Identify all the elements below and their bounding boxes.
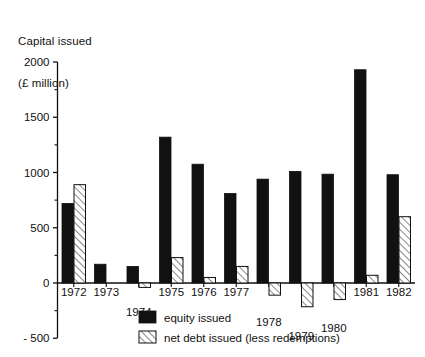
bar-equity-1972 (62, 203, 74, 283)
bar-equity-1982 (387, 175, 399, 283)
plot-area: - 5000500100015002000 197219731974197519… (0, 0, 425, 357)
bar-equity-1980 (322, 174, 334, 283)
legend-swatch-equity (139, 311, 156, 323)
bar-equity-1981 (355, 70, 367, 283)
legend-label-0: equity issued (164, 312, 231, 324)
bar-net-debt-1981 (367, 275, 379, 283)
x-tick-label-1975: 1975 (158, 286, 184, 298)
bar-equity-1977 (225, 193, 237, 283)
bar-net-debt-1980 (334, 283, 346, 300)
legend-swatch-net-debt (139, 331, 156, 343)
x-tick-label-1977: 1977 (223, 286, 249, 298)
y-tick-label: 1000 (24, 167, 50, 179)
y-tick-label: - 500 (23, 332, 49, 344)
bar-equity-1975 (160, 137, 172, 283)
x-tick-label-1978: 1978 (256, 316, 282, 328)
bar-net-debt-1979 (302, 283, 314, 307)
x-tick-label-1982: 1982 (386, 286, 412, 298)
bar-equity-1979 (290, 171, 302, 283)
bar-chart: Capital issued (£ million) - 50005001000… (0, 0, 425, 357)
legend-label-1: net debt issued (less redemptions) (164, 332, 340, 344)
x-tick-label-1976: 1976 (191, 286, 217, 298)
bar-net-debt-1975 (172, 258, 184, 283)
y-tick-label: 1500 (24, 111, 50, 123)
x-tick-label-1981: 1981 (353, 286, 379, 298)
bars-group (62, 70, 411, 307)
x-tick-label-1973: 1973 (93, 286, 119, 298)
y-axis: - 5000500100015002000 (23, 56, 57, 344)
x-tick-label-1972: 1972 (61, 286, 87, 298)
bar-net-debt-1982 (399, 217, 411, 283)
bar-equity-1978 (257, 179, 269, 283)
y-tick-label: 2000 (24, 56, 50, 68)
bar-net-debt-1974 (139, 283, 151, 287)
y-tick-label: 500 (30, 222, 49, 234)
bar-equity-1974 (127, 266, 139, 283)
bar-net-debt-1972 (74, 185, 86, 283)
bar-equity-1976 (192, 164, 204, 283)
bar-net-debt-1977 (237, 266, 249, 283)
bar-net-debt-1976 (204, 277, 216, 283)
y-tick-label: 0 (43, 277, 49, 289)
chart-legend: equity issuednet debt issued (less redem… (139, 311, 340, 344)
bar-equity-1973 (95, 264, 107, 283)
bar-net-debt-1978 (269, 283, 281, 295)
